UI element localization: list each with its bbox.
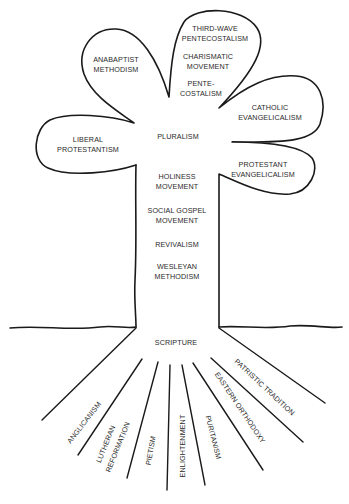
ground-line-left [10,326,136,328]
label-enlightenment: ENLIGHTENMENT [178,414,187,477]
label-catholic-evangelicalism: EVANGELICALISM [238,113,302,122]
label-pente: PENTE- [188,79,215,88]
petal-charismatic: CHARISMATIC MOVEMENT [183,52,233,71]
label-anabaptist: ANABAPTIST [93,55,139,64]
label-anglicanism: ANGLICANISM [65,400,103,445]
petal-pentecostalism: PENTE- COSTALISM [180,79,222,98]
petal-catholic-evangelicalism: CATHOLIC EVANGELICALISM [238,103,302,122]
petal-third-wave: THIRD-WAVE PENTECOSTALISM [182,24,248,43]
label-protestantism: PROTESTANTISM [57,145,119,154]
label-third-wave: THIRD-WAVE [192,24,238,33]
label-scripture: SCRIPTURE [155,338,198,347]
label-methodism: METHODISM [94,65,139,74]
label-revivalism: REVIVALISM [155,240,199,249]
label-charismatic: CHARISMATIC [183,52,233,61]
trunk-left-edge [135,165,136,327]
label-pietism: PIETISM [144,435,158,466]
label-catholic: CATHOLIC [252,103,289,112]
label-pluralism: PLURALISM [157,132,199,141]
petal-anabaptist: ANABAPTIST METHODISM [93,55,139,74]
label-social-gospel-movement: MOVEMENT [156,216,199,225]
label-third-wave-pentecostalism: PENTECOSTALISM [182,34,248,43]
label-puritanism: PURITANISM [204,415,224,461]
label-charismatic-movement: MOVEMENT [187,62,230,71]
ground-line-right [219,326,342,328]
label-holiness: HOLINESS [158,172,195,181]
label-protestant: PROTESTANT [239,160,288,169]
root-line [167,365,170,490]
label-social-gospel: SOCIAL GOSPEL [148,206,207,215]
label-liberal: LIBERAL [73,135,103,144]
petal-liberal-protestantism: LIBERAL PROTESTANTISM [57,135,119,154]
root-labels: ANGLICANISM LUTHERAN REFORMATION PIETISM… [65,357,297,477]
label-holiness-movement: MOVEMENT [156,182,199,191]
petal-protestant-evangelicalism: PROTESTANT EVANGELICALISM [231,160,295,179]
label-wesleyan: WESLEYAN [157,262,197,271]
label-wesleyan-methodism: METHODISM [155,272,200,281]
tree-diagram: ANABAPTIST METHODISM THIRD-WAVE PENTECOS… [0,0,349,504]
label-protestant-evangelicalism: EVANGELICALISM [231,170,295,179]
trunk-labels: HOLINESS MOVEMENT SOCIAL GOSPEL MOVEMENT… [148,172,207,281]
root-edge-left [42,328,136,420]
root-line [127,362,158,478]
label-costalism: COSTALISM [180,89,222,98]
